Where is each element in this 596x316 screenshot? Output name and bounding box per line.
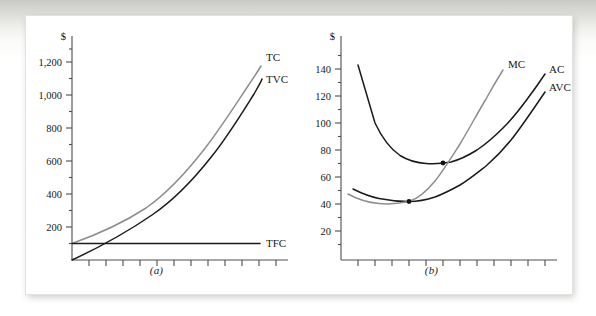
panel-a-ytick-1000: 1,000	[38, 90, 62, 101]
panel-a-ytick-400: 400	[46, 189, 62, 200]
panel-b-y-axis-symbol: $	[330, 31, 335, 42]
panel-b-ytick-100: 100	[315, 118, 331, 129]
marker-avc-minimum	[407, 199, 412, 204]
panel-b-y-ticks	[335, 56, 341, 245]
panel-b-chart: 20 40 60 80 100 120 140 $	[299, 16, 572, 268]
figure-root: 200 400 600 800 1,000 1,200 $	[0, 0, 596, 316]
panel-b: 20 40 60 80 100 120 140 $	[299, 16, 572, 294]
panel-b-ytick-20: 20	[321, 226, 332, 237]
curve-avc	[353, 92, 545, 202]
curve-tc	[72, 66, 261, 244]
panel-a-caption: (a)	[20, 264, 293, 276]
curve-label-tvc: TVC	[266, 73, 288, 85]
panel-a-ytick-800: 800	[46, 123, 62, 134]
curve-mc	[348, 70, 503, 204]
panel-a-ytick-200: 200	[46, 222, 62, 233]
panel-a: 200 400 600 800 1,000 1,200 $	[26, 16, 299, 294]
panel-a-y-axis-symbol: $	[61, 31, 66, 42]
figure-plate: 200 400 600 800 1,000 1,200 $	[26, 16, 572, 294]
curve-label-ac: AC	[549, 63, 564, 75]
curve-label-mc: MC	[508, 58, 525, 70]
panel-a-ytick-1200: 1,200	[38, 57, 62, 68]
panel-b-ytick-80: 80	[321, 145, 332, 156]
panel-a-ytick-600: 600	[46, 156, 62, 167]
panel-b-caption: (b)	[295, 264, 568, 276]
panel-b-ytick-140: 140	[315, 64, 331, 75]
panel-b-ytick-60: 60	[321, 172, 332, 183]
marker-ac-minimum	[441, 161, 446, 166]
panel-b-ytick-120: 120	[315, 91, 331, 102]
curve-label-tc: TC	[266, 51, 280, 63]
curve-label-avc: AVC	[549, 81, 571, 93]
curve-ac	[358, 65, 545, 164]
panel-a-y-ticks	[66, 49, 72, 244]
panel-a-chart: 200 400 600 800 1,000 1,200 $	[26, 16, 299, 268]
curve-label-tfc: TFC	[266, 237, 286, 249]
panel-a-axes	[72, 36, 288, 260]
panel-b-ytick-40: 40	[321, 199, 332, 210]
